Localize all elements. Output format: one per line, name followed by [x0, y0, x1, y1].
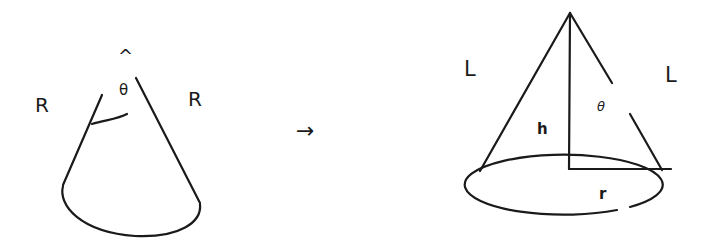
cone-right-slant-upper	[570, 13, 612, 83]
sector-arc	[62, 186, 200, 236]
sector-left-edge	[63, 95, 102, 185]
cone-angle-label: θ	[597, 99, 605, 114]
cone-right-slant-label: L	[665, 63, 677, 87]
cone-height-line	[569, 13, 570, 169]
cone-figure: L L θ h r	[464, 13, 677, 215]
cone-base-ellipse	[465, 155, 663, 215]
sector-figure: ^ θ R R	[35, 45, 202, 236]
cone-height-label: h	[537, 120, 548, 138]
sector-left-radius-label: R	[35, 93, 49, 117]
sector-angle-label: θ	[119, 81, 128, 99]
diagram-canvas: ^ θ R R → L L θ h r	[0, 0, 711, 252]
cone-left-slant	[480, 13, 570, 171]
apex-caret-label: ^	[118, 45, 133, 66]
sector-right-radius-label: R	[188, 87, 202, 111]
cone-radius-label: r	[599, 185, 607, 203]
angle-arc	[92, 114, 127, 124]
transform-arrow: →	[296, 118, 314, 143]
cone-left-slant-label: L	[464, 57, 476, 81]
cone-right-slant-lower	[630, 114, 662, 170]
